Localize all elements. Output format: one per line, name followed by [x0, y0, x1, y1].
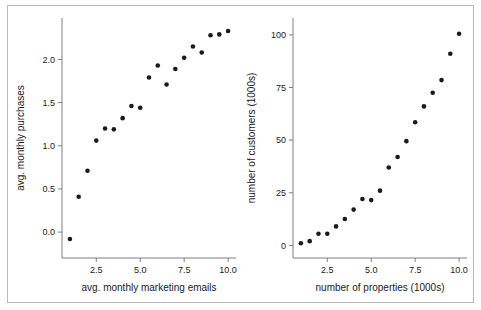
scatter-plot-left: 0.00.51.01.52.02.55.07.510.0avg. monthly… [10, 10, 241, 300]
y-tick-label: 0.5 [42, 184, 55, 194]
data-point [299, 241, 304, 246]
data-point-group [68, 29, 231, 242]
data-point [395, 155, 400, 160]
x-tick-label: 5.0 [134, 265, 147, 275]
y-tick-label: 0.0 [42, 227, 55, 237]
data-point [360, 197, 365, 202]
x-axis-title: avg. monthly marketing emails [81, 282, 216, 293]
scatter-plot-right: 02550751002.55.07.510.0number of propert… [241, 10, 472, 300]
y-tick-label: 0 [281, 241, 286, 251]
x-tick-label: 10.0 [450, 265, 468, 275]
y-tick-label: 25 [276, 188, 286, 198]
data-point [369, 198, 374, 203]
data-point [164, 82, 169, 87]
data-point [85, 169, 90, 174]
data-point [316, 231, 321, 236]
data-point [68, 237, 73, 242]
x-tick-label: 7.5 [178, 265, 191, 275]
data-point [448, 51, 453, 56]
data-point [155, 63, 160, 68]
data-point [457, 31, 462, 36]
data-point [386, 165, 391, 170]
y-axis-title: avg. monthly purchases [15, 85, 26, 191]
screenshot-root: 0.00.51.01.52.02.55.07.510.0avg. monthly… [0, 0, 481, 310]
data-point [325, 231, 330, 236]
data-point [147, 75, 152, 80]
data-point-group [299, 31, 462, 245]
data-point [208, 33, 213, 38]
data-point [439, 78, 444, 83]
y-tick-label: 50 [276, 135, 286, 145]
data-point [173, 67, 178, 72]
data-point [334, 224, 339, 229]
data-point [378, 188, 383, 193]
data-point [226, 29, 231, 34]
data-point [413, 120, 418, 125]
data-point [217, 32, 222, 37]
figure-area: 0.00.51.01.52.02.55.07.510.0avg. monthly… [0, 0, 481, 310]
data-point [191, 44, 196, 49]
data-point [351, 207, 356, 212]
y-tick-label: 75 [276, 83, 286, 93]
data-point [76, 194, 81, 199]
x-tick-label: 7.5 [409, 265, 422, 275]
x-tick-label: 2.5 [321, 265, 334, 275]
y-tick-label: 2.0 [42, 55, 55, 65]
data-point [94, 138, 99, 143]
data-point [343, 217, 348, 222]
data-point [112, 127, 117, 132]
chart-panel-right: 02550751002.55.07.510.0number of propert… [241, 10, 472, 300]
x-tick-label: 10.0 [219, 265, 237, 275]
y-axis-title: number of customers (1000s) [246, 73, 257, 204]
data-point [404, 139, 409, 144]
data-point [138, 105, 143, 110]
data-point [129, 104, 134, 109]
y-tick-label: 100 [271, 30, 286, 40]
x-tick-label: 2.5 [90, 265, 103, 275]
x-tick-label: 5.0 [365, 265, 378, 275]
data-point [307, 239, 312, 244]
data-point [430, 90, 435, 95]
y-tick-label: 1.0 [42, 141, 55, 151]
data-point [199, 50, 204, 55]
x-axis-title: number of properties (1000s) [316, 282, 445, 293]
data-point [182, 55, 187, 60]
data-point [103, 126, 108, 131]
data-point [120, 116, 125, 121]
data-point [422, 104, 427, 109]
y-tick-label: 1.5 [42, 98, 55, 108]
chart-panel-left: 0.00.51.01.52.02.55.07.510.0avg. monthly… [10, 10, 241, 300]
